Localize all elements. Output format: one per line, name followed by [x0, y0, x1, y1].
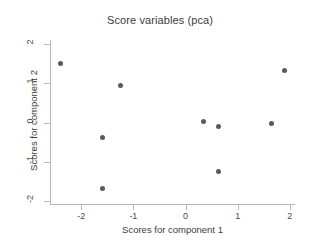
data-point — [100, 186, 105, 191]
y-axis-title: Scores for component 2 — [28, 41, 39, 201]
data-point — [100, 135, 105, 140]
data-point — [216, 169, 221, 174]
x-tick-label: -1 — [121, 211, 145, 221]
x-axis-line — [50, 204, 295, 205]
plot-area — [50, 40, 295, 204]
x-tick-label: 0 — [174, 211, 198, 221]
x-tick-mark — [186, 205, 187, 210]
x-tick-label: 2 — [278, 211, 302, 221]
pca-score-scatter-chart: Score variables (pca) 210-1-2 -2-1012 Sc… — [0, 0, 320, 244]
data-point — [216, 124, 221, 129]
x-tick-mark — [238, 205, 239, 210]
chart-title: Score variables (pca) — [0, 14, 320, 26]
x-tick-label: -2 — [69, 211, 93, 221]
x-tick-mark — [133, 205, 134, 210]
x-tick-mark — [81, 205, 82, 210]
data-point — [58, 61, 63, 66]
x-tick-label: 1 — [226, 211, 250, 221]
data-point — [282, 68, 287, 73]
x-axis-title: Scores for component 1 — [50, 224, 295, 235]
x-tick-mark — [290, 205, 291, 210]
